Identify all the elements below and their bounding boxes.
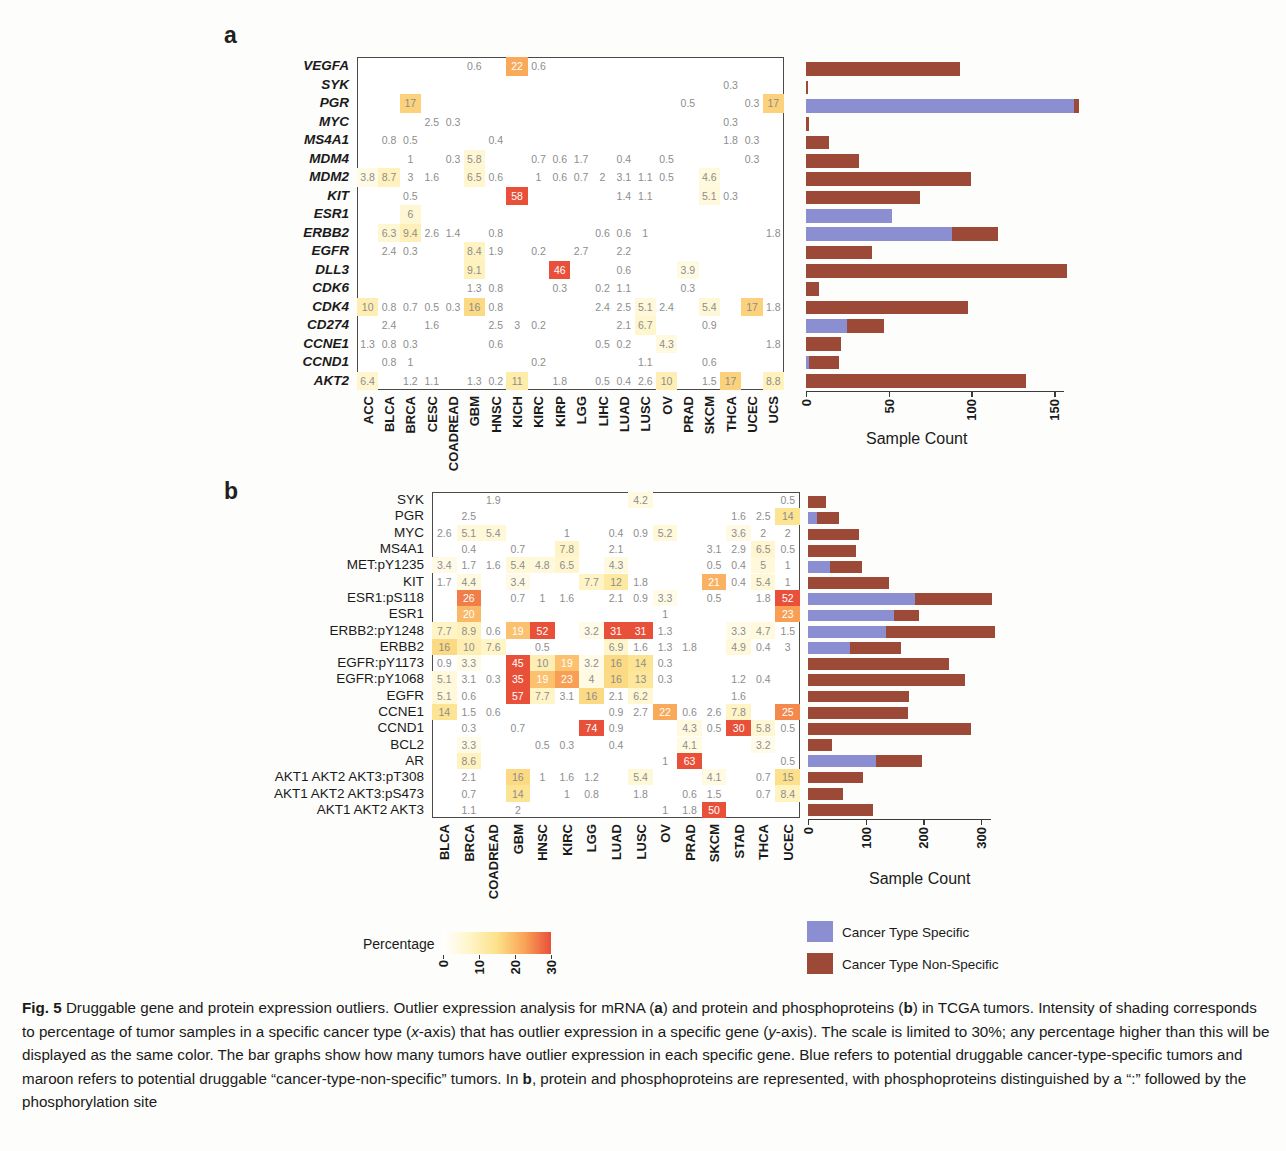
bar-segment bbox=[808, 529, 859, 541]
bar-segment bbox=[886, 626, 996, 638]
bar-axis-line bbox=[808, 819, 991, 820]
bar-row bbox=[808, 804, 1004, 816]
bar-segment bbox=[808, 707, 908, 719]
bar-segment bbox=[808, 577, 889, 589]
bar-segment bbox=[808, 561, 830, 573]
caption-title: Druggable gene and protein expression ou… bbox=[66, 999, 389, 1016]
colorbar-tick bbox=[515, 955, 516, 959]
bar-row bbox=[808, 723, 1004, 735]
bar-row bbox=[808, 593, 1004, 605]
bar-segment bbox=[808, 788, 843, 800]
bar-row bbox=[808, 577, 1004, 589]
bar-segment bbox=[808, 593, 915, 605]
caption-label: Fig. 5 bbox=[22, 999, 62, 1016]
bar-segment bbox=[850, 642, 902, 654]
bar-segment bbox=[915, 593, 993, 605]
bar-segment bbox=[808, 739, 832, 751]
colorbar-tick-label: 10 bbox=[472, 960, 487, 974]
bar-row bbox=[808, 545, 1004, 557]
panel-b-barchart: 0100200300 bbox=[0, 0, 1286, 900]
bar-row bbox=[808, 512, 1004, 524]
bar-axis-tick bbox=[981, 820, 982, 825]
bar-segment bbox=[808, 496, 826, 508]
caption-ref-a: a bbox=[654, 999, 662, 1016]
bar-segment bbox=[808, 610, 894, 622]
bar-row bbox=[808, 658, 1004, 670]
bar-segment bbox=[808, 512, 817, 524]
bar-axis-tick bbox=[923, 820, 924, 825]
bar-row bbox=[808, 496, 1004, 508]
bar-segment bbox=[808, 691, 909, 703]
caption-ref-b: b bbox=[903, 999, 912, 1016]
bar-segment bbox=[830, 561, 862, 573]
bar-segment bbox=[894, 610, 919, 622]
bar-row bbox=[808, 642, 1004, 654]
bar-axis-tick-label: 100 bbox=[859, 827, 874, 849]
caption-ref-b2: b bbox=[523, 1070, 532, 1087]
bar-axis-tick-label: 300 bbox=[974, 827, 989, 849]
bar-axis-tick bbox=[808, 820, 809, 825]
bar-segment bbox=[817, 512, 839, 524]
caption-part-1: Outlier expression analysis for mRNA ( bbox=[389, 999, 654, 1016]
colorbar-tick bbox=[551, 955, 552, 959]
bar-segment bbox=[808, 626, 886, 638]
figure-5-container: a VEGFASYKPGRMYCMS4A1MDM4MDM2KITESR1ERBB… bbox=[0, 0, 1286, 1151]
bar-segment bbox=[808, 545, 856, 557]
bar-row bbox=[808, 707, 1004, 719]
bar-segment bbox=[808, 674, 965, 686]
bar-segment bbox=[808, 658, 949, 670]
bar-row bbox=[808, 561, 1004, 573]
colorbar-tick bbox=[443, 955, 444, 959]
colorbar-tick bbox=[479, 955, 480, 959]
colorbar-tick-label: 30 bbox=[544, 960, 559, 974]
bar-segment bbox=[808, 755, 876, 767]
colorbar-tick-label: 0 bbox=[436, 960, 451, 967]
key-cancer-type-specific-swatch bbox=[807, 921, 833, 942]
caption-y-axis-italic: y bbox=[768, 1023, 776, 1040]
bar-row bbox=[808, 626, 1004, 638]
bar-row bbox=[808, 739, 1004, 751]
colorbar-label: Percentage bbox=[363, 936, 435, 952]
key-cancer-type-non-specific-swatch bbox=[807, 953, 833, 974]
bar-row bbox=[808, 755, 1004, 767]
caption-part-4: -axis) that has outlier expression in a … bbox=[419, 1023, 768, 1040]
bar-row bbox=[808, 772, 1004, 784]
key-cancer-type-non-specific-label: Cancer Type Non-Specific bbox=[842, 957, 999, 972]
bar-axis-tick-label: 200 bbox=[916, 827, 931, 849]
bar-row bbox=[808, 529, 1004, 541]
bar-axis-tick bbox=[866, 820, 867, 825]
bar-segment bbox=[808, 804, 873, 816]
caption-part-2: ) and protein and phosphoproteins ( bbox=[663, 999, 904, 1016]
bar-row bbox=[808, 788, 1004, 800]
key-cancer-type-specific-label: Cancer Type Specific bbox=[842, 925, 969, 940]
panel-b-xaxis-label: Sample Count bbox=[869, 870, 970, 888]
bar-row bbox=[808, 691, 1004, 703]
bar-segment bbox=[808, 772, 863, 784]
caption-x-axis-italic: x bbox=[411, 1023, 419, 1040]
colorbar-tick-label: 20 bbox=[508, 960, 523, 974]
bar-segment bbox=[808, 723, 971, 735]
bar-axis-tick-label: 0 bbox=[801, 827, 816, 834]
bar-segment bbox=[808, 642, 850, 654]
bar-segment bbox=[876, 755, 922, 767]
colorbar-gradient bbox=[443, 932, 551, 954]
bar-row bbox=[808, 674, 1004, 686]
bar-row bbox=[808, 610, 1004, 622]
figure-caption: Fig. 5 Druggable gene and protein expres… bbox=[22, 996, 1270, 1114]
